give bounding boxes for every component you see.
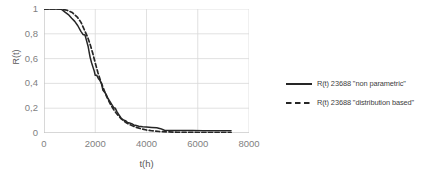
legend-item: R(t) 23688 "non parametric" (286, 74, 439, 93)
y-tick-label: 0,8 (4, 29, 38, 39)
x-tick-label: 0 (24, 139, 64, 149)
x-tick-label: 8000 (229, 139, 269, 149)
y-tick-label: 0,2 (4, 103, 38, 113)
x-axis-title: t(h) (44, 158, 249, 169)
series-line-0 (44, 9, 231, 131)
y-tick-label: 1 (4, 4, 38, 14)
y-tick-label: 0,6 (4, 54, 38, 64)
series-line-1 (44, 9, 231, 133)
legend-item: R(t) 23688 "distribution based" (286, 93, 439, 112)
legend-swatch-solid-icon (286, 79, 312, 89)
chart-figure: R(t) t(h) 00,20,40,60,81 020004000600080… (0, 0, 439, 179)
series-canvas (44, 9, 249, 133)
legend-swatch-dashed-icon (286, 98, 312, 108)
chart-plot-region: R(t) t(h) 00,20,40,60,81 020004000600080… (0, 0, 262, 179)
legend-label: R(t) 23688 "distribution based" (317, 98, 414, 107)
y-tick-label: 0,4 (4, 78, 38, 88)
chart-legend: R(t) 23688 "non parametric" R(t) 23688 "… (286, 74, 439, 112)
x-tick-label: 2000 (75, 139, 115, 149)
x-tick-label: 4000 (127, 139, 167, 149)
x-tick-label: 6000 (178, 139, 218, 149)
y-tick-label: 0 (4, 128, 38, 138)
legend-label: R(t) 23688 "non parametric" (317, 79, 406, 88)
plot-canvas (44, 9, 249, 133)
